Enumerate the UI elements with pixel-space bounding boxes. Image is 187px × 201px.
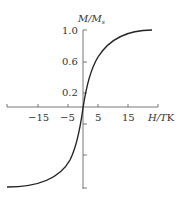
- x-ticks: [7, 104, 158, 107]
- x-axis-label: H/TK: [147, 112, 175, 123]
- y-ticks: [83, 30, 87, 188]
- x-tick-m15: −15: [28, 112, 49, 123]
- x-tick-15: 15: [122, 112, 135, 123]
- y-tick-0-6: 0.6: [62, 56, 78, 67]
- y-tick-0-2: 0.2: [62, 87, 78, 98]
- x-tick-5: 5: [95, 112, 101, 123]
- y-tick-1-0: 1.0: [62, 25, 78, 36]
- x-tick-m5: −5: [60, 112, 75, 123]
- magnetization-chart: 1.0 0.6 0.2 −15 −5 5 15 M/Ms H/TK: [0, 0, 187, 201]
- magnetization-curve: [7, 30, 152, 187]
- y-axis-label: M/Ms: [77, 13, 105, 25]
